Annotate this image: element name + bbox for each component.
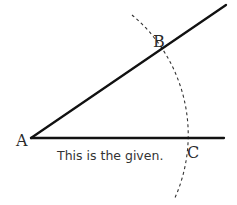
ray-ab [31, 5, 226, 138]
angle-diagram: A B C This is the given. [0, 0, 237, 205]
point-label-b: B [153, 32, 165, 51]
point-label-c: C [187, 143, 199, 162]
point-label-a: A [15, 131, 28, 150]
caption-text: This is the given. [56, 148, 163, 163]
